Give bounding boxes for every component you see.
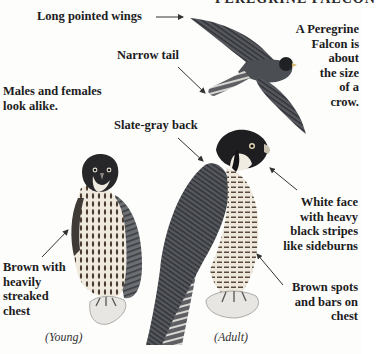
label-brown-spots: Brown spots and bars on chest — [292, 280, 358, 324]
label-narrow-tail: Narrow tail — [117, 48, 179, 63]
adult-falcon — [146, 130, 270, 345]
caption-adult: (Adult) — [214, 330, 248, 345]
arrow-narrow-tail — [178, 67, 205, 93]
label-white-face: White face with heavy black stripes like… — [283, 195, 358, 253]
arrow-white-face — [270, 168, 297, 190]
label-brown-streaked: Brown with heavily streaked chest — [3, 260, 66, 318]
caption-young: (Young) — [45, 330, 83, 345]
label-long-pointed-wings: Long pointed wings — [37, 9, 142, 24]
label-slate-gray-back: Slate-gray back — [114, 118, 198, 133]
flying-falcon — [190, 18, 306, 134]
arrow-slate-back — [178, 138, 203, 161]
label-males-females: Males and females look alike. — [3, 84, 102, 113]
arrow-brown-spots — [257, 254, 283, 285]
young-falcon — [71, 154, 142, 324]
label-size-note: A Peregrine Falcon is about the size of … — [296, 22, 359, 109]
arrow-brown-streaked — [42, 230, 68, 257]
